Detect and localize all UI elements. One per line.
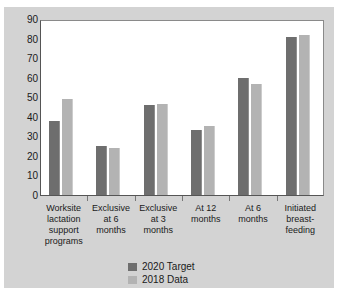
category-label-line: At 6 (229, 203, 276, 214)
y-axis-tick-label: 0 (10, 191, 38, 201)
bar-group (230, 21, 277, 195)
bar-target (238, 78, 249, 195)
y-axis-tick-label: 20 (10, 152, 38, 162)
category-label-line: feeding (277, 225, 324, 236)
category-label-line: lactation (40, 214, 87, 225)
y-axis-tick-label: 60 (10, 74, 38, 84)
bar-data (251, 84, 262, 195)
category-label-line: At 12 (182, 203, 229, 214)
category-label-line: Worksite (40, 203, 87, 214)
category-label-line: months (87, 225, 134, 236)
bar-group (136, 21, 183, 195)
bar-target (96, 146, 107, 195)
category-label-line: support (40, 225, 87, 236)
x-axis-category-label: At 12months (182, 203, 229, 225)
bar-group (183, 21, 230, 195)
x-axis-tick (182, 196, 183, 201)
category-label-line: breast- (277, 214, 324, 225)
category-label-line: Exclusive (87, 203, 134, 214)
y-axis-tick-label: 70 (10, 54, 38, 64)
category-label-line: months (135, 225, 182, 236)
category-label-line: at 3 (135, 214, 182, 225)
chart-legend: 2020 Target2018 Data (128, 261, 224, 287)
bar-target (49, 121, 60, 195)
x-axis-category-label: Exclusiveat 3months (135, 203, 182, 236)
x-axis-category-label: Initiatedbreast-feeding (277, 203, 324, 236)
y-axis-tick-label: 50 (10, 93, 38, 103)
x-axis-tick (229, 196, 230, 201)
bar-data (299, 35, 310, 195)
bar-data (204, 126, 215, 195)
bar-data (109, 148, 120, 195)
y-axis: 0102030405060708090 (10, 20, 38, 196)
legend-item: 2018 Data (128, 274, 224, 286)
bar-target (191, 130, 202, 196)
legend-label: 2020 Target (142, 262, 195, 272)
category-label-line: Initiated (277, 203, 324, 214)
y-axis-tick-label: 40 (10, 113, 38, 123)
legend-item: 2020 Target (128, 261, 224, 273)
y-axis-tick-label: 30 (10, 132, 38, 142)
legend-swatch-icon (128, 263, 137, 271)
legend-label: 2018 Data (142, 275, 188, 285)
category-label-line: programs (40, 236, 87, 247)
plot-area (40, 20, 324, 196)
bar-group (278, 21, 325, 195)
bar-target (144, 105, 155, 195)
x-axis-category-label: At 6months (229, 203, 276, 225)
x-axis-category-label: Worksitelactationsupportprograms (40, 203, 87, 247)
x-axis-ticks (40, 196, 324, 201)
bar-data (62, 99, 73, 195)
x-axis-category-label: Exclusiveat 6months (87, 203, 134, 236)
bars-layer (41, 21, 323, 195)
bar-group (88, 21, 135, 195)
bar-data (157, 104, 168, 195)
bar-group (41, 21, 88, 195)
x-axis-category-labels: WorksitelactationsupportprogramsExclusiv… (40, 203, 324, 259)
bar-target (286, 37, 297, 195)
category-label-line: Exclusive (135, 203, 182, 214)
category-label-line: at 6 (87, 214, 134, 225)
bar-chart-figure: 0102030405060708090 Worksitelactationsup… (4, 7, 334, 288)
x-axis-tick (277, 196, 278, 201)
x-axis-tick (87, 196, 88, 201)
x-axis-tick (135, 196, 136, 201)
category-label-line: months (229, 214, 276, 225)
y-axis-tick-label: 90 (10, 15, 38, 25)
legend-swatch-icon (128, 276, 137, 284)
y-axis-tick-label: 80 (10, 35, 38, 45)
category-label-line: months (182, 214, 229, 225)
y-axis-tick-label: 10 (10, 171, 38, 181)
